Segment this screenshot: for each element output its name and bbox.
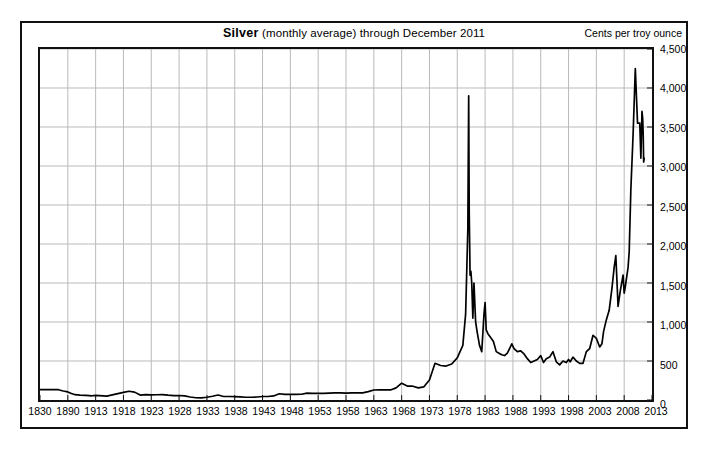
y-tick-label: 2,500 xyxy=(660,201,692,213)
chart-figure: Silver (monthly average) through Decembe… xyxy=(20,21,688,429)
plot-area xyxy=(38,47,654,402)
x-tick-label: 1830 xyxy=(28,405,51,417)
series-line-silver xyxy=(40,49,652,400)
x-tick-label: 1993 xyxy=(532,405,555,417)
x-tick-label: 1948 xyxy=(280,405,303,417)
chart-title-rest: (monthly average) through December 2011 xyxy=(259,27,485,39)
y-tick-label: 3,500 xyxy=(660,122,692,134)
y-tick-label: 4,500 xyxy=(660,43,692,55)
x-tick-label: 1998 xyxy=(560,405,583,417)
x-tick-label: 1918 xyxy=(112,405,135,417)
y-tick-label: 3,000 xyxy=(660,161,692,173)
x-tick-label: 2008 xyxy=(616,405,639,417)
x-tick-label: 1958 xyxy=(336,405,359,417)
x-tick-label: 1890 xyxy=(56,405,79,417)
x-tick-label: 1943 xyxy=(252,405,275,417)
x-tick-label: 2003 xyxy=(588,405,611,417)
x-tick-label: 1983 xyxy=(476,405,499,417)
x-axis-tick-labels: 1830189019131918192319281933193819431948… xyxy=(38,405,654,423)
x-tick-label: 1953 xyxy=(308,405,331,417)
x-tick-label: 1938 xyxy=(224,405,247,417)
y-tick-label: 500 xyxy=(660,359,692,371)
x-tick-label: 1933 xyxy=(196,405,219,417)
chart-title-strong: Silver xyxy=(223,26,259,40)
x-tick-label: 1978 xyxy=(448,405,471,417)
y-tick-label: 1,000 xyxy=(660,319,692,331)
x-tick-label: 1923 xyxy=(140,405,163,417)
chart-title-bar: Silver (monthly average) through Decembe… xyxy=(22,23,686,46)
y-tick-label: 1,500 xyxy=(660,280,692,292)
x-tick-label: 1973 xyxy=(420,405,443,417)
y-axis-unit-label: Cents per troy ounce xyxy=(585,27,682,39)
x-tick-label: 1963 xyxy=(364,405,387,417)
x-tick-label: 1968 xyxy=(392,405,415,417)
y-axis-tick-labels: 05001,0001,5002,0002,5003,0003,5004,0004… xyxy=(658,47,692,402)
x-tick-label: 1988 xyxy=(504,405,527,417)
y-tick-label: 4,000 xyxy=(660,82,692,94)
x-tick-label: 1913 xyxy=(84,405,107,417)
x-tick-label: 2013 xyxy=(644,405,667,417)
x-tick-label: 1928 xyxy=(168,405,191,417)
y-tick-label: 2,000 xyxy=(660,240,692,252)
